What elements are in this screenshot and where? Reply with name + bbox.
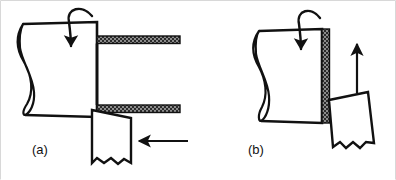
panel-b: (b) <box>248 11 374 157</box>
machining-diagram: (a) <box>0 0 396 180</box>
panel-b-workpiece-cylinder <box>253 29 322 123</box>
panel-b-cutting-tool <box>329 92 374 148</box>
panel-a-workpiece-cylinder <box>18 22 97 117</box>
panel-a-tube-upper-wall <box>97 36 180 44</box>
panel-b-label: (b) <box>248 142 264 157</box>
panel-a: (a) <box>18 9 188 164</box>
panel-a-label: (a) <box>32 142 48 157</box>
panel-a-hollow-tube <box>97 36 180 113</box>
panel-b-workpiece-end-face <box>322 29 330 123</box>
panel-a-cutting-tool <box>92 110 131 164</box>
panel-a-tube-lower-wall <box>97 105 180 113</box>
figure-container: (a) <box>0 0 396 180</box>
